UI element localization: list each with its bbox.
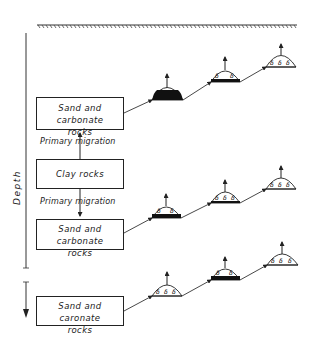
depth-axis-label: Depth: [12, 170, 22, 205]
svg-text:δ: δ: [270, 59, 274, 66]
box-label-line1: Clay rocks: [37, 168, 123, 180]
svg-text:δ: δ: [286, 181, 290, 188]
svg-text:δ: δ: [288, 257, 292, 264]
trap-gas-only: δ δ δ: [266, 166, 296, 189]
box-source-clay: Clay rocks: [36, 159, 124, 189]
svg-text:δ: δ: [216, 269, 220, 276]
trap-gas-only: δ δ δ: [267, 242, 298, 265]
svg-text:δ: δ: [229, 269, 233, 276]
box-label-line1: Sand and carbonate: [37, 102, 123, 126]
trap-row-3: δ δ δ δ δ δ δ δ: [124, 242, 298, 311]
svg-text:δ: δ: [172, 288, 176, 295]
trap-gas-only: δ δ δ: [152, 272, 182, 296]
svg-text:δ: δ: [231, 194, 235, 201]
svg-text:δ: δ: [170, 207, 174, 214]
svg-text:δ: δ: [286, 59, 290, 66]
svg-text:δ: δ: [164, 288, 168, 295]
box-reservoir-2: Sand and carbonate rocks: [36, 219, 124, 250]
box-reservoir-3: Sand and caronate rocks: [36, 296, 124, 326]
migration-label-down: Primary migration: [40, 197, 116, 206]
box-label-line1: Sand and caronate: [37, 300, 123, 324]
svg-text:δ: δ: [156, 288, 160, 295]
trap-oil-medium: δ δ: [211, 257, 240, 280]
ground-surface-line: [37, 25, 297, 28]
svg-text:δ: δ: [270, 181, 274, 188]
trap-gas-only: δ δ δ: [266, 44, 296, 67]
trap-row-2: δ δ δ δ δ δ δ δ: [124, 166, 296, 233]
trap-row-1: δ δ δ δ δ: [124, 44, 296, 113]
box-label-line2: rocks: [37, 247, 123, 259]
depth-axis: [23, 33, 29, 318]
box-label-line1: Sand and carbonate: [37, 223, 123, 247]
svg-text:δ: δ: [279, 257, 283, 264]
trap-oil-medium: δ δ: [152, 194, 181, 218]
trap-oil-heavy: [152, 74, 183, 100]
svg-text:δ: δ: [215, 194, 219, 201]
trap-oil-thin: δ δ δ: [211, 180, 240, 203]
svg-text:δ: δ: [271, 257, 275, 264]
svg-text:δ: δ: [230, 72, 234, 79]
svg-text:δ: δ: [215, 72, 219, 79]
svg-text:δ: δ: [223, 194, 227, 201]
box-label-line2: rocks: [37, 324, 123, 336]
migration-label-up: Primary migration: [40, 137, 116, 146]
trap-oil-thin: δ δ: [211, 57, 240, 82]
svg-text:δ: δ: [278, 59, 282, 66]
svg-text:δ: δ: [157, 207, 161, 214]
depth-arrow-icon: [23, 309, 29, 318]
svg-text:δ: δ: [278, 181, 282, 188]
box-reservoir-1: Sand and carbonate rocks: [36, 97, 124, 130]
